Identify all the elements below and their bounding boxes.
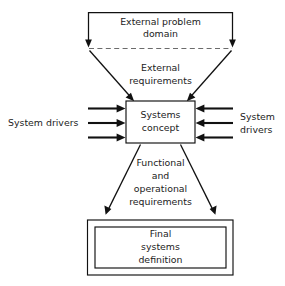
functional-requirements-label-line4: requirements [129, 196, 192, 207]
final-systems-definition-label-line1: Final [150, 228, 172, 239]
driver-right-arrowhead-1 [196, 105, 205, 113]
functional-requirements-label-line1: Functional [136, 157, 184, 168]
system-drivers-left-label: System drivers [8, 117, 79, 128]
funnel-left-arrowhead [126, 93, 135, 101]
driver-left-arrowhead-1 [117, 105, 126, 113]
external-problem-domain-label-line1: External problem [120, 16, 201, 27]
external-problem-domain-label-line2: domain [143, 28, 178, 39]
funnel-left-line [90, 51, 131, 97]
fanout-right-arrowhead [210, 206, 217, 215]
driver-right-arrowhead-2 [196, 119, 205, 127]
system-drivers-right-label-line2: drivers [240, 124, 273, 135]
system-drivers-left-arrows [88, 105, 126, 142]
fanout-left-arrowhead [104, 206, 111, 215]
funnel-right-line [191, 51, 232, 97]
driver-left-arrowhead-2 [117, 119, 126, 127]
systems-concept-flow-diagram: External problem domain External require… [0, 0, 285, 286]
system-drivers-right-arrows [196, 105, 234, 142]
external-requirements-label-line1: External [141, 62, 180, 73]
final-systems-definition-label-line3: definition [138, 254, 182, 265]
functional-requirements-label-line3: operational [134, 183, 187, 194]
driver-left-arrowhead-3 [117, 134, 126, 142]
diagram-canvas: External problem domain External require… [0, 0, 285, 286]
funnel-right-arrowhead [187, 93, 196, 101]
systems-concept-label-line2: concept [142, 122, 180, 133]
bracket-left-arrowhead [85, 40, 92, 48]
driver-right-arrowhead-3 [196, 134, 205, 142]
systems-concept-label-line1: Systems [141, 109, 181, 120]
final-systems-definition-label-line2: systems [141, 241, 180, 252]
external-requirements-label-line2: requirements [129, 75, 192, 86]
functional-requirements-label-line2: and [152, 170, 170, 181]
bracket-right-arrowhead [229, 40, 236, 48]
system-drivers-right-label-line1: System [240, 111, 275, 122]
